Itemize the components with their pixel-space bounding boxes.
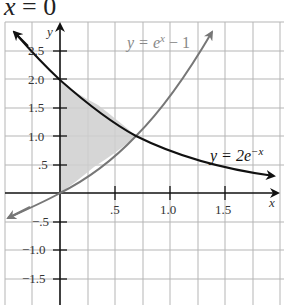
x-tick-label: 1.5	[215, 202, 231, 217]
y-tick-label: 2.5	[28, 43, 44, 58]
y-tick-label: −.5	[32, 214, 49, 229]
curve-label-two-exp-neg: y = 2e−x	[208, 145, 263, 165]
y-tick-label: 1.5	[28, 100, 44, 115]
curve-exp-minus-one-left-arrow	[8, 207, 30, 218]
y-tick-label: 2.0	[28, 72, 44, 87]
shaded-region	[60, 80, 136, 193]
y-tick-label: −1.0	[22, 242, 46, 257]
y-tick-label: .5	[38, 157, 48, 172]
y-tick-label: 1.0	[28, 129, 44, 144]
curve-label-exp-minus-one: y = ex − 1	[125, 32, 190, 52]
y-axis-label: y	[45, 24, 53, 39]
graph: .5 1.0 1.5 2.5 2.0 1.5 1.0 .5 −.5 −1.0 −…	[0, 0, 284, 305]
curve-two-exp-neg-left-arrow	[14, 32, 28, 46]
x-tick-label: .5	[110, 202, 120, 217]
x-tick-label: 1.0	[160, 202, 176, 217]
y-tick-label: −1.5	[22, 271, 46, 286]
x-axis-label: x	[268, 195, 275, 210]
